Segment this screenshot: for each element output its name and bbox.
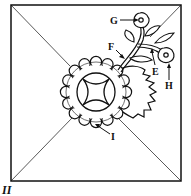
leaf	[145, 26, 160, 36]
callout-h-arrowhead	[167, 63, 171, 68]
callout-e-label: E	[152, 66, 159, 77]
diagonal-bottom-right	[118, 118, 181, 181]
callout-e-arrow	[152, 52, 155, 65]
figure-label: II	[1, 183, 13, 196]
stem	[118, 22, 141, 70]
embroidery-diagram: G F E H I II	[0, 0, 191, 196]
callout-g-label: G	[110, 15, 118, 26]
diagonal-bottom-left	[11, 118, 72, 181]
leaf	[155, 33, 174, 43]
side-flower	[158, 48, 174, 63]
callout-h-label: H	[165, 80, 173, 91]
callout-f-arrowhead	[119, 54, 125, 59]
callout-i-label: I	[111, 131, 115, 142]
leaf	[130, 56, 152, 62]
diagonal-top-left	[11, 5, 70, 66]
callout-i-arrow	[98, 126, 110, 134]
callout-f-label: F	[108, 41, 114, 52]
leaf	[125, 30, 134, 42]
